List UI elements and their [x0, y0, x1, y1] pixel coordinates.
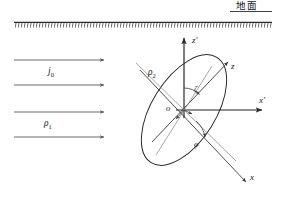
resistivity-2-label: ρ2: [148, 68, 156, 79]
ground-label: 地面: [236, 1, 257, 11]
x-axis-label: x: [250, 173, 254, 182]
angle-upper-label: ζ: [194, 86, 197, 94]
x-prime-mark: ′: [263, 95, 265, 105]
current-arrow-group: [14, 60, 104, 137]
figure-canvas: [0, 0, 283, 200]
origin-marker-arrow-left: [176, 110, 184, 119]
z-prime-mark: ′: [196, 35, 198, 45]
angle-lower-label: φ: [194, 141, 198, 149]
z-prime-axis-label: z′: [192, 36, 197, 45]
origin-marker-arrow-right: [184, 110, 192, 114]
rotated-axes: [140, 62, 246, 182]
origin-label: o: [166, 104, 170, 113]
z-axis: [152, 62, 228, 142]
resistivity-1-label: ρ1: [44, 119, 52, 130]
z-axis-label: z: [231, 62, 235, 71]
ground-surface: [14, 12, 272, 28]
ground-hatching: [14, 22, 272, 27]
figure-root: 地面 j0 ρ1 ρ2 z′ x′ z x o ζ φ: [0, 0, 283, 200]
x-prime-axis-label: x′: [259, 96, 265, 105]
resistivity-2-subscript: 2: [153, 72, 156, 79]
resistivity-1-subscript: 1: [49, 123, 52, 130]
current-density-label: j0: [48, 67, 54, 78]
current-density-subscript: 0: [51, 71, 54, 78]
primed-axes: [176, 38, 262, 118]
